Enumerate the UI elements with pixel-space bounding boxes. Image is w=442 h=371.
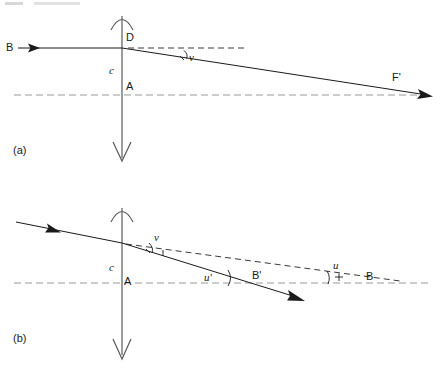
label-angle-u-prime-b: u'	[204, 271, 213, 283]
figure-page: B D c A F' v (a)	[0, 0, 442, 371]
incident-ray-b	[16, 222, 122, 243]
panel-b: c A v u' B' u B (b)	[13, 208, 428, 359]
label-lens-symbol-c-a: c	[109, 64, 114, 76]
label-angle-u-b: u	[333, 259, 339, 271]
label-angle-v-a: v	[189, 51, 194, 63]
panel-a: B D c A F' v (a)	[6, 16, 433, 161]
label-lens-center-a-a: A	[126, 80, 134, 92]
label-angle-v-b: v	[154, 231, 159, 243]
dashed-ray-extension-b	[126, 244, 400, 281]
label-focal-point-f-prime-a: F'	[392, 71, 401, 83]
angle-arc-u-b	[327, 271, 329, 284]
angle-tick-v-a	[180, 56, 184, 60]
label-lens-symbol-c-b: c	[109, 261, 114, 273]
refracted-ray-a	[122, 48, 424, 95]
label-object-point-b-a: B	[6, 41, 13, 53]
label-image-point-b-prime-b: B'	[252, 269, 261, 281]
caption-b: (b)	[13, 332, 26, 344]
angle-arc-u-prime-b	[228, 270, 231, 286]
label-object-point-b-b: B	[366, 270, 373, 282]
label-lens-center-a-b: A	[124, 275, 132, 287]
label-lens-top-d-a: D	[126, 31, 134, 43]
optics-ray-diagram: B D c A F' v (a)	[0, 0, 442, 371]
caption-a: (a)	[13, 144, 26, 156]
